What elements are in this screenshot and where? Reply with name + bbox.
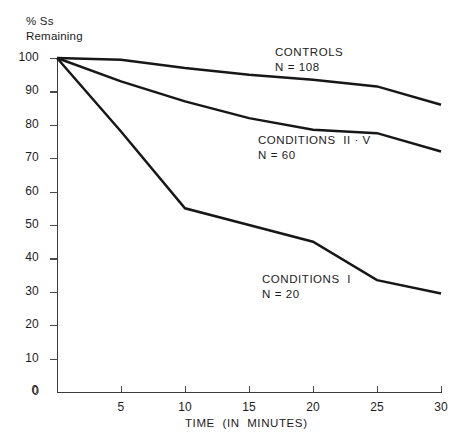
y-axis-title-line1: % Ss [26,15,54,27]
y-tick-label: 20 [9,317,39,332]
series-line [57,58,441,105]
series-label-count: N = 20 [262,288,300,300]
x-tick-label: 10 [170,400,200,415]
series-label-name: CONDITIONS I [262,273,351,285]
y-tick-label: 50 [9,217,39,232]
series-label-count: N = 60 [258,149,296,161]
x-tick-label: 0 [20,383,50,398]
y-axis-title: % SsRemaining [26,14,83,43]
x-tick-label: 20 [298,400,328,415]
series-label: CONDITIONS II · VN = 60 [258,133,371,163]
y-tick-label: 40 [9,250,39,265]
y-tick-label: 80 [9,117,39,132]
y-tick-label: 90 [9,83,39,98]
x-tick-marks [122,386,442,392]
x-tick-label: 15 [234,400,264,415]
y-axis-title-line2: Remaining [26,30,83,42]
y-tick-label: 100 [9,50,39,65]
series-label-name: CONTROLS [275,46,343,58]
chart-canvas [0,0,461,447]
data-series-group [57,58,441,293]
x-axis-title: TIME (IN MINUTES) [185,416,308,431]
series-label-name: CONDITIONS II · V [258,134,371,146]
y-tick-label: 10 [9,351,39,366]
series-label-count: N = 108 [275,61,320,73]
series-label: CONDITIONS IN = 20 [262,272,351,302]
series-label: CONTROLSN = 108 [275,45,343,75]
series-line [57,58,441,152]
x-tick-label: 25 [362,400,392,415]
y-tick-label: 30 [9,284,39,299]
y-tick-marks [50,59,57,360]
y-tick-label: 70 [9,150,39,165]
chart-figure: % SsRemaining TIME (IN MINUTES) 01020304… [0,0,461,447]
y-tick-label: 60 [9,184,39,199]
x-tick-label: 30 [426,400,456,415]
x-tick-label: 5 [106,400,136,415]
series-line [57,58,441,293]
